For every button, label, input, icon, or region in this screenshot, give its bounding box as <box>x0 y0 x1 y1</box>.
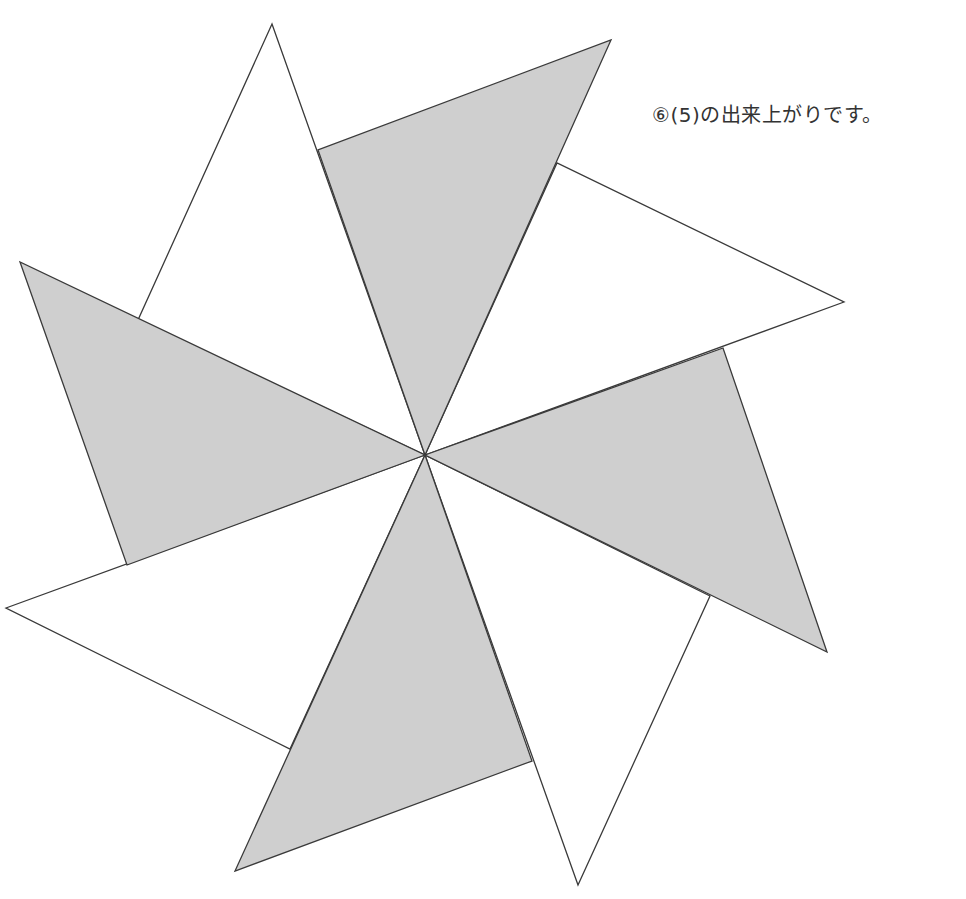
pinwheel-diagram <box>0 0 966 899</box>
caption-text: ⑥(5)の出来上がりです。 <box>652 99 883 128</box>
